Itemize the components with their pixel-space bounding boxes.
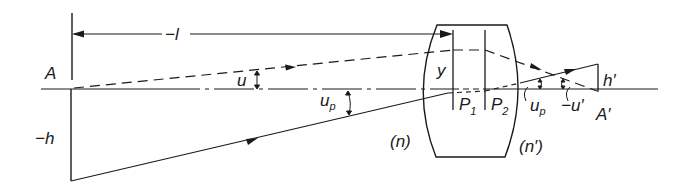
label-object-point: A: [44, 64, 56, 83]
label-image-index: (n′): [519, 137, 543, 156]
chief-ray-arrow-icon: [246, 138, 258, 145]
label-image-height: h′: [603, 71, 616, 90]
label-image-pupil-angle: up: [530, 96, 546, 117]
marginal-ray-exit-arrow-icon: [530, 63, 542, 70]
label-aperture-angle: u: [237, 71, 247, 90]
label-pupil-angle: up: [320, 91, 336, 112]
angle-u-indicator: [255, 71, 260, 89]
label-image-point: A′: [595, 105, 611, 124]
label-ray-height: y: [436, 61, 447, 80]
label-object-distance: −l: [165, 25, 180, 44]
object-line: [71, 13, 72, 181]
label-object-height: −h: [35, 129, 54, 148]
angle-up-indicator: [346, 91, 352, 115]
label-principal-plane-1: P1: [459, 95, 476, 117]
lens-outline: [423, 25, 518, 157]
label-object-index: (n): [390, 132, 411, 151]
object-distance-arrow: [72, 30, 453, 38]
chief-ray: [71, 64, 598, 181]
label-principal-plane-2: P2: [491, 95, 508, 117]
optical-ray-diagram: A −l −h u up y P1 P2 up −u′ A′ h′ (n) (n…: [0, 0, 691, 182]
marginal-ray-arrow-icon: [285, 65, 296, 71]
label-image-angle: −u′: [561, 96, 584, 115]
chief-ray-exit-arrow-icon: [564, 69, 576, 75]
